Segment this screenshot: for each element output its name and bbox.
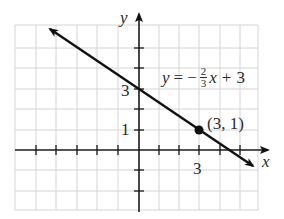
equation-label: y = − 2 3 x + 3 — [162, 66, 245, 89]
eq-equals: = — [174, 69, 184, 86]
eq-y: y — [162, 69, 170, 86]
eq-x: x — [209, 69, 217, 86]
coordinate-plane — [0, 0, 284, 219]
eq-fraction: 2 3 — [200, 66, 208, 89]
y-axis-label: y — [120, 9, 128, 26]
point-label: (3, 1) — [207, 115, 244, 132]
y-axis — [134, 14, 144, 212]
eq-constant: 3 — [236, 69, 245, 86]
y-tick-label-3: 3 — [121, 82, 130, 99]
eq-denominator: 3 — [201, 78, 207, 89]
function-line — [50, 29, 253, 166]
eq-plus: + — [222, 69, 232, 86]
x-axis-label: x — [262, 153, 270, 170]
x-tick-label-3: 3 — [193, 160, 202, 177]
y-tick-label-1: 1 — [121, 121, 130, 138]
eq-minus: − — [187, 69, 197, 86]
graph-figure: y x 3 1 3 (3, 1) y = − 2 3 x + 3 — [0, 0, 284, 219]
point-3-1 — [195, 126, 204, 135]
